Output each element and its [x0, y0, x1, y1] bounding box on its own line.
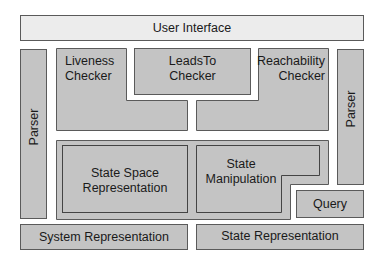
leadsto-line2: Checker: [135, 69, 250, 84]
reachability-line2: Checker: [278, 69, 325, 84]
state-manip-line2: Manipulation: [196, 172, 286, 187]
state-representation-label: State Representation: [197, 229, 363, 244]
leadsto-line1: LeadsTo: [135, 54, 250, 69]
system-representation-box: System Representation: [20, 224, 188, 250]
state-representation-box: State Representation: [196, 224, 364, 250]
query-label: Query: [297, 197, 363, 212]
state-space-line2: Representation: [62, 181, 188, 196]
query-box: Query: [296, 190, 364, 218]
system-representation-label: System Representation: [21, 230, 187, 245]
liveness-line2: Checker: [65, 69, 112, 84]
state-space-line1: State Space: [62, 166, 188, 181]
state-manip-line1: State: [196, 157, 286, 172]
leadsto-checker-box: LeadsTo Checker: [134, 48, 251, 95]
reachability-line1: Reachability: [257, 54, 325, 69]
liveness-line1: Liveness: [65, 54, 114, 69]
